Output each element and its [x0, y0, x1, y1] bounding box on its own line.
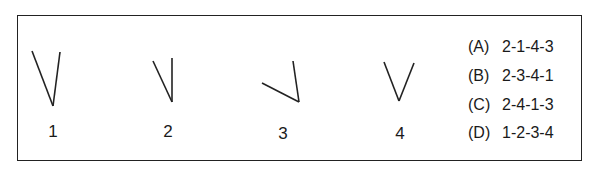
figure-3-angle-icon — [262, 61, 299, 102]
figure-2-label: 2 — [158, 122, 178, 142]
figure-4-label: 4 — [390, 124, 410, 144]
option-c[interactable]: (C)2-4-1-3 — [468, 96, 554, 114]
option-b[interactable]: (B)2-3-4-1 — [468, 67, 554, 85]
option-a-key: (A) — [468, 38, 502, 56]
angle-figures — [0, 0, 592, 172]
figure-4-angle-icon — [384, 62, 414, 101]
option-d-value: 1-2-3-4 — [502, 124, 554, 141]
option-b-key: (B) — [468, 67, 502, 85]
figure-1-angle-icon — [32, 51, 60, 106]
option-d-key: (D) — [468, 124, 502, 142]
option-c-value: 2-4-1-3 — [502, 96, 554, 113]
figure-1-label: 1 — [43, 122, 63, 142]
option-a-value: 2-1-4-3 — [502, 38, 554, 55]
option-a[interactable]: (A)2-1-4-3 — [468, 38, 554, 56]
option-d[interactable]: (D)1-2-3-4 — [468, 124, 554, 142]
option-b-value: 2-3-4-1 — [502, 67, 554, 84]
option-c-key: (C) — [468, 96, 502, 114]
figure-2-angle-icon — [153, 58, 172, 102]
figure-3-label: 3 — [273, 124, 293, 144]
